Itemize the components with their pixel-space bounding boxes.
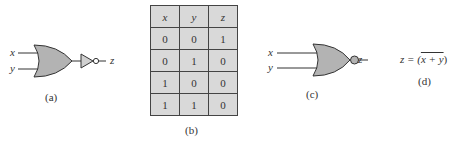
cell: 1 — [180, 94, 209, 116]
equation-rhs: ) — [444, 53, 448, 65]
input-y-label-a: y — [10, 62, 15, 74]
nor-equation: z = (x + y) — [400, 53, 447, 65]
cell: 0 — [209, 50, 238, 72]
caption-b: (b) — [185, 124, 198, 136]
header-y: y — [180, 6, 209, 28]
table-row: 0 0 1 — [151, 28, 238, 50]
input-y-label-c: y — [268, 61, 273, 73]
table-row: 1 1 0 — [151, 94, 238, 116]
input-x-label-c: x — [268, 46, 273, 58]
equation-overlined: x + y — [421, 53, 444, 65]
table-row: 1 0 0 — [151, 72, 238, 94]
equation-lhs: z = ( — [400, 53, 421, 65]
cell: 0 — [180, 28, 209, 50]
cell: 1 — [180, 50, 209, 72]
caption-a: (a) — [45, 91, 57, 103]
output-z-label-c: z — [358, 53, 362, 65]
cell: 1 — [151, 72, 180, 94]
table-row: 0 1 0 — [151, 50, 238, 72]
caption-d: (d) — [418, 75, 431, 87]
header-z: z — [209, 6, 238, 28]
not-gate-icon — [81, 54, 106, 68]
nor-gate-icon — [277, 44, 368, 76]
header-x: x — [151, 6, 180, 28]
cell: 1 — [209, 28, 238, 50]
or-gate-icon — [18, 45, 81, 77]
cell: 0 — [151, 50, 180, 72]
cell: 0 — [209, 94, 238, 116]
caption-c: (c) — [306, 88, 318, 100]
cell: 0 — [209, 72, 238, 94]
cell: 0 — [151, 28, 180, 50]
output-z-label-a: z — [110, 54, 114, 66]
cell: 1 — [151, 94, 180, 116]
cell: 0 — [180, 72, 209, 94]
table-header-row: x y z — [151, 6, 238, 28]
input-x-label-a: x — [10, 46, 15, 58]
truth-table: x y z 0 0 1 0 1 0 1 0 0 1 1 0 — [150, 5, 238, 116]
